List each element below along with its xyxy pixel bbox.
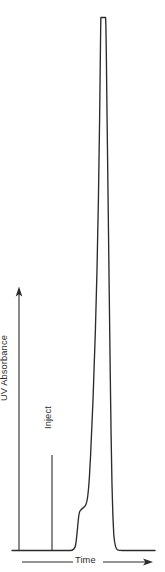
y-axis [16, 287, 23, 551]
inject-marker-label: Inject [44, 406, 53, 429]
chromatogram-figure: UV Absorbance Inject Time [0, 0, 165, 572]
uv-trace [12, 18, 155, 551]
chromatogram-plot [0, 0, 165, 572]
y-axis-label: UV Absorbance [0, 335, 9, 401]
uv-trace-line [12, 18, 155, 551]
x-axis-label: Time [75, 556, 96, 565]
